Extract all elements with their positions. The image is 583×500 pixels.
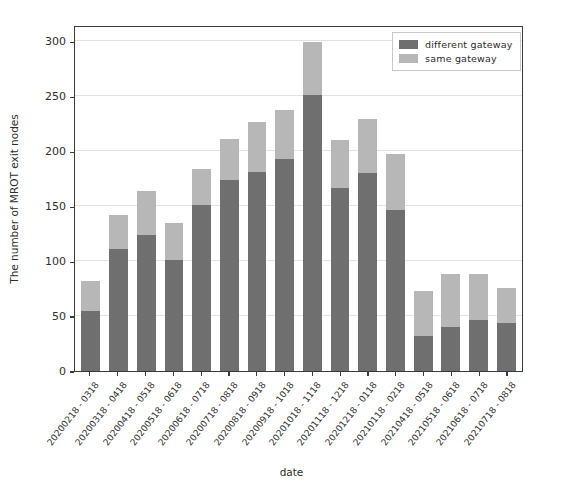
stacked-bar[interactable] — [137, 191, 156, 371]
x-tick-mark — [506, 372, 507, 376]
bar-slot — [437, 27, 465, 371]
bar-slot — [299, 27, 327, 371]
x-tick-mark — [117, 372, 118, 376]
y-tick-mark-200 — [70, 152, 74, 153]
stacked-bar[interactable] — [497, 288, 516, 371]
bar-slot — [188, 27, 216, 371]
bar-segment-different-gateway[interactable] — [220, 180, 239, 371]
bar-segment-same-gateway[interactable] — [248, 122, 267, 173]
legend-item-different-gateway: different gateway — [399, 37, 513, 51]
stacked-bar[interactable] — [81, 281, 100, 371]
chart-legend: different gateway same gateway — [392, 32, 521, 71]
bar-segment-different-gateway[interactable] — [386, 210, 405, 371]
x-tick-mark — [451, 372, 452, 376]
bar-series-container — [75, 27, 522, 371]
x-tick-mark — [228, 372, 229, 376]
y-tick-mark-50 — [70, 316, 74, 317]
bar-segment-same-gateway[interactable] — [497, 288, 516, 323]
bar-segment-different-gateway[interactable] — [165, 260, 184, 371]
bar-segment-different-gateway[interactable] — [81, 311, 100, 371]
bar-segment-same-gateway[interactable] — [275, 110, 294, 159]
y-tick-mark-300 — [70, 42, 74, 43]
bar-slot — [409, 27, 437, 371]
bar-segment-different-gateway[interactable] — [303, 95, 322, 371]
stacked-bar[interactable] — [358, 119, 377, 371]
x-tick-mark — [395, 372, 396, 376]
legend-item-same-gateway: same gateway — [399, 51, 513, 65]
y-tick-label-300: 300 — [6, 36, 66, 47]
bar-slot — [354, 27, 382, 371]
plot-area — [74, 26, 523, 372]
legend-label-different-gateway: different gateway — [425, 39, 513, 50]
bar-segment-different-gateway[interactable] — [441, 327, 460, 371]
bar-segment-same-gateway[interactable] — [109, 215, 128, 249]
stacked-bar[interactable] — [192, 169, 211, 371]
x-tick-mark — [201, 372, 202, 376]
x-tick-mark — [284, 372, 285, 376]
stacked-bar[interactable] — [220, 139, 239, 371]
y-axis-title: The number of MROT exit nodes — [8, 114, 20, 284]
bar-slot — [105, 27, 133, 371]
bar-slot — [465, 27, 493, 371]
bar-segment-different-gateway[interactable] — [192, 205, 211, 371]
x-tick-mark — [173, 372, 174, 376]
bar-segment-same-gateway[interactable] — [303, 42, 322, 96]
bar-segment-same-gateway[interactable] — [469, 274, 488, 320]
stacked-bar[interactable] — [248, 122, 267, 371]
x-tick-mark — [312, 372, 313, 376]
stacked-bar[interactable] — [331, 140, 350, 371]
bar-segment-different-gateway[interactable] — [497, 323, 516, 371]
stacked-bar[interactable] — [109, 215, 128, 371]
bar-segment-different-gateway[interactable] — [358, 173, 377, 371]
bar-segment-same-gateway[interactable] — [358, 119, 377, 173]
stacked-bar[interactable] — [165, 223, 184, 371]
y-tick-mark-100 — [70, 262, 74, 263]
bar-segment-same-gateway[interactable] — [81, 281, 100, 311]
bar-segment-different-gateway[interactable] — [248, 172, 267, 371]
bar-slot — [132, 27, 160, 371]
x-tick-mark — [367, 372, 368, 376]
bar-segment-different-gateway[interactable] — [414, 336, 433, 371]
bar-segment-same-gateway[interactable] — [165, 223, 184, 260]
x-axis-title: date — [0, 466, 583, 478]
bar-slot — [215, 27, 243, 371]
bar-slot — [271, 27, 299, 371]
bar-segment-same-gateway[interactable] — [137, 191, 156, 235]
stacked-bar[interactable] — [414, 291, 433, 371]
y-tick-mark-0 — [70, 371, 74, 372]
stacked-bar[interactable] — [386, 154, 405, 371]
x-tick-mark — [256, 372, 257, 376]
stacked-bar[interactable] — [303, 42, 322, 372]
bar-segment-same-gateway[interactable] — [192, 169, 211, 205]
stacked-bar[interactable] — [441, 274, 460, 371]
bar-segment-different-gateway[interactable] — [275, 159, 294, 371]
bar-segment-same-gateway[interactable] — [414, 291, 433, 336]
bar-slot — [326, 27, 354, 371]
x-tick-mark — [340, 372, 341, 376]
x-tick-mark — [423, 372, 424, 376]
bar-slot — [492, 27, 520, 371]
bar-segment-same-gateway[interactable] — [441, 274, 460, 327]
bar-segment-different-gateway[interactable] — [109, 249, 128, 371]
chart-figure: 050100150200250300 20200218 - 0318202003… — [0, 0, 583, 500]
y-tick-mark-150 — [70, 207, 74, 208]
legend-swatch-different-gateway — [399, 40, 418, 49]
bar-slot — [160, 27, 188, 371]
y-tick-label-50: 50 — [6, 311, 66, 322]
y-tick-mark-250 — [70, 97, 74, 98]
legend-swatch-same-gateway — [399, 54, 418, 63]
x-tick-mark — [479, 372, 480, 376]
bar-segment-same-gateway[interactable] — [331, 140, 350, 187]
y-tick-label-0: 0 — [6, 366, 66, 377]
bar-segment-same-gateway[interactable] — [386, 154, 405, 210]
legend-label-same-gateway: same gateway — [425, 53, 497, 64]
bar-segment-different-gateway[interactable] — [137, 235, 156, 371]
y-tick-label-250: 250 — [6, 91, 66, 102]
stacked-bar[interactable] — [275, 110, 294, 371]
bar-slot — [77, 27, 105, 371]
bar-segment-same-gateway[interactable] — [220, 139, 239, 180]
bar-segment-different-gateway[interactable] — [331, 188, 350, 371]
stacked-bar[interactable] — [469, 274, 488, 371]
bar-slot — [382, 27, 410, 371]
bar-segment-different-gateway[interactable] — [469, 320, 488, 371]
